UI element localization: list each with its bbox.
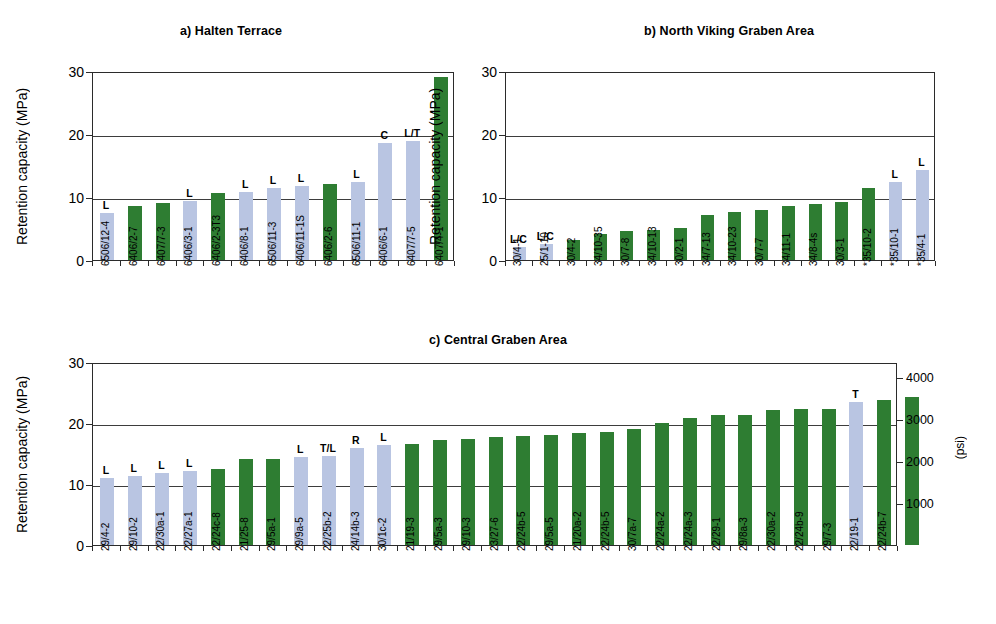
x-category-label: 30/2-1 bbox=[674, 238, 685, 266]
x-category-label-wrap: 22/29-1 bbox=[722, 551, 733, 585]
y-axis-label-right: (psi) bbox=[953, 436, 967, 459]
x-category-label: 30/3-1 bbox=[835, 238, 846, 266]
x-category-label-wrap: 29/9a-5 bbox=[305, 551, 316, 585]
x-tick-mark bbox=[592, 546, 593, 551]
x-tick-mark bbox=[398, 261, 399, 266]
x-category-label-wrap: 29/10-3 bbox=[472, 551, 483, 585]
x-tick-mark bbox=[881, 261, 882, 266]
x-category-label: 30/7a-7 bbox=[627, 517, 638, 551]
x-category-label-wrap: 21/25-8 bbox=[250, 551, 261, 585]
x-tick-mark bbox=[720, 261, 721, 266]
x-category-label: 6407/7-3 bbox=[156, 227, 167, 266]
y-tick-mark bbox=[86, 424, 92, 425]
x-category-label-wrap: *35/4-1 bbox=[927, 266, 938, 298]
bar-annotation: L bbox=[158, 459, 164, 471]
x-category-label: 29/4-2 bbox=[100, 523, 111, 551]
x-category-label-wrap: 29/10-2 bbox=[139, 551, 150, 585]
x-tick-mark bbox=[342, 546, 343, 551]
x-category-label-wrap: 22/25b-2 bbox=[333, 551, 344, 590]
x-category-label: 29/5a-1 bbox=[266, 517, 277, 551]
x-tick-mark bbox=[425, 546, 426, 551]
x-tick-mark bbox=[286, 546, 287, 551]
x-category-label: *35/10-1 bbox=[889, 228, 900, 266]
x-tick-mark bbox=[532, 261, 533, 266]
x-category-label-wrap: 6406/2-7 bbox=[139, 266, 150, 305]
x-tick-mark bbox=[828, 261, 829, 266]
x-tick-mark bbox=[613, 261, 614, 266]
y-axis-label-b: Retention capacity (MPa) bbox=[427, 68, 443, 265]
x-tick-mark bbox=[231, 261, 232, 266]
x-tick-mark bbox=[647, 546, 648, 551]
x-tick-mark bbox=[869, 546, 870, 551]
y-tick-label: 20 bbox=[459, 128, 497, 142]
x-tick-mark bbox=[801, 261, 802, 266]
x-category-label: 30/7-7 bbox=[754, 238, 765, 266]
y-tick-mark-right bbox=[897, 504, 903, 505]
x-category-label-wrap: 6406/2-6 bbox=[334, 266, 345, 305]
x-category-label: *35/4-1 bbox=[916, 234, 927, 266]
x-category-label: 29/5a-3 bbox=[433, 517, 444, 551]
x-tick-mark bbox=[564, 546, 565, 551]
y-tick-mark bbox=[86, 135, 92, 136]
panel-central-graben: c) Central Graben AreaRetention capacity… bbox=[0, 333, 996, 624]
gridline bbox=[93, 136, 453, 137]
bar-annotation: L bbox=[130, 462, 136, 474]
y-tick-mark bbox=[86, 363, 92, 364]
chart-title-a: a) Halten Terrace bbox=[0, 24, 462, 38]
x-tick-mark bbox=[315, 261, 316, 266]
x-category-label-wrap: 22/30a-1 bbox=[166, 551, 177, 590]
x-category-label-wrap: 22/24a-3 bbox=[694, 551, 705, 590]
x-category-label: 6406/2-7 bbox=[128, 227, 139, 266]
x-category-label: 34/10-35 bbox=[593, 227, 604, 266]
x-tick-mark bbox=[92, 261, 93, 266]
x-tick-mark bbox=[203, 261, 204, 266]
bar-annotation: T/L bbox=[320, 442, 336, 454]
x-tick-mark bbox=[730, 546, 731, 551]
x-category-label: 22/25b-2 bbox=[322, 512, 333, 551]
y-tick-mark-right bbox=[897, 420, 903, 421]
x-category-label-wrap: *35/10-1 bbox=[900, 266, 911, 304]
x-category-label-wrap: 24/14b-3 bbox=[361, 551, 372, 590]
x-tick-mark bbox=[176, 261, 177, 266]
x-tick-mark bbox=[774, 261, 775, 266]
x-category-label: 22/29-1 bbox=[711, 517, 722, 551]
x-tick-mark bbox=[935, 261, 936, 266]
x-category-label-wrap: 6407/4-1 bbox=[445, 266, 456, 305]
x-category-label-wrap: 30/2-1 bbox=[685, 266, 696, 294]
x-category-label: 6406/2-3T3 bbox=[211, 215, 222, 266]
y-tick-label-right: 1000 bbox=[906, 498, 934, 511]
bar-annotation: L bbox=[891, 168, 897, 180]
x-tick-mark bbox=[92, 546, 93, 551]
y-axis-label-a: Retention capacity (MPa) bbox=[14, 68, 30, 265]
x-tick-mark bbox=[453, 546, 454, 551]
x-category-label: 6406/11-1S bbox=[295, 215, 306, 266]
x-category-label: 34/11-1 bbox=[781, 233, 792, 266]
x-category-label: 22/30a-1 bbox=[155, 512, 166, 551]
x-category-label: 29/10-2 bbox=[128, 517, 139, 551]
y-tick-mark bbox=[499, 72, 505, 73]
bar-annotation: L bbox=[103, 464, 109, 476]
bar-annotation: T bbox=[852, 388, 858, 400]
bar-annotation: L bbox=[298, 172, 304, 184]
x-category-label: 22/27a-1 bbox=[183, 512, 194, 551]
bar-annotation: L bbox=[918, 156, 924, 168]
x-category-label-wrap: 34/8-4s bbox=[819, 266, 830, 299]
x-category-label-wrap: 6506/11-3 bbox=[278, 266, 289, 310]
y-tick-label: 30 bbox=[46, 356, 84, 370]
y-tick-label: 10 bbox=[46, 478, 84, 492]
bar-annotation: L bbox=[103, 199, 109, 211]
x-category-label: 30/4-1 bbox=[512, 238, 523, 266]
x-category-label: 22/24b-9 bbox=[794, 512, 805, 551]
bar-annotation: R bbox=[352, 434, 360, 446]
x-category-label: 6407/7-5 bbox=[406, 227, 417, 266]
x-tick-mark bbox=[854, 261, 855, 266]
x-category-label-wrap: 34/10-13 bbox=[658, 266, 669, 305]
x-tick-mark bbox=[747, 261, 748, 266]
y-tick-label: 0 bbox=[46, 539, 84, 553]
x-tick-mark bbox=[259, 546, 260, 551]
x-tick-mark bbox=[370, 546, 371, 551]
x-category-label-wrap: 34/10-23 bbox=[738, 266, 749, 305]
x-tick-mark bbox=[639, 261, 640, 266]
x-tick-mark bbox=[666, 261, 667, 266]
x-category-label-wrap: 6407/7-5 bbox=[417, 266, 428, 305]
